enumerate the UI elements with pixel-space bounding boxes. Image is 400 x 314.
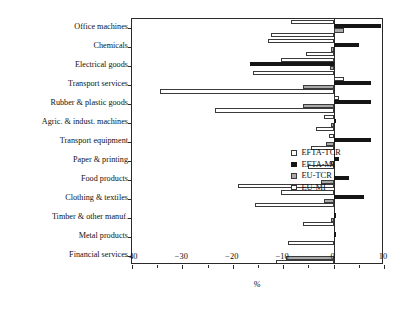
- bar-efta-mi: [334, 138, 372, 142]
- x-axis-tick-label: −40: [124, 252, 137, 261]
- bar-efta-mi: [334, 119, 337, 123]
- x-axis-tick-label: −30: [175, 252, 188, 261]
- y-axis-tick: [128, 161, 132, 162]
- legend-swatch-icon: [291, 162, 297, 168]
- bar-eu-mi: [271, 33, 334, 37]
- bar-efta-mi: [334, 43, 359, 47]
- y-axis-tick: [128, 85, 132, 86]
- y-axis-tick: [128, 47, 132, 48]
- x-axis-minor-tick: [157, 265, 158, 268]
- x-axis-tick-label: 10: [379, 252, 387, 261]
- category-label: Food products: [81, 174, 128, 183]
- category-label: Chemicals: [93, 41, 128, 50]
- bar-efta-mi: [334, 195, 364, 199]
- category-label: Timber & other manuf.: [52, 212, 128, 221]
- bar-eu-mi: [316, 127, 334, 131]
- x-axis-minor-tick: [359, 265, 360, 268]
- x-axis-tick: [384, 265, 385, 269]
- bar-efta-mi: [334, 232, 337, 236]
- y-axis-tick: [128, 218, 132, 219]
- category-label: Financial services: [69, 250, 128, 259]
- x-axis-tick-label: 0: [331, 252, 335, 261]
- y-axis-tick: [128, 142, 132, 143]
- y-axis-tick: [128, 237, 132, 238]
- bar-efta-mi: [334, 81, 372, 85]
- y-axis-tick: [128, 28, 132, 29]
- category-label: Transport services: [68, 79, 128, 88]
- y-axis-tick: [128, 180, 132, 181]
- x-axis-minor-tick: [258, 265, 259, 268]
- x-axis-tick: [334, 265, 335, 269]
- bar-efta-tcr: [291, 20, 334, 24]
- plot-inner: [132, 19, 382, 263]
- category-label: Paper & printing: [73, 155, 128, 164]
- category-label: Transport equipment: [60, 136, 128, 145]
- x-axis-tick: [283, 265, 284, 269]
- category-label: Rubber & plastic goods: [50, 98, 128, 107]
- legend-item-efta-mi: EFTA-MI: [291, 159, 341, 171]
- legend-swatch-icon: [291, 150, 297, 156]
- bar-eu-mi: [303, 222, 333, 226]
- legend-swatch-icon: [291, 185, 297, 191]
- legend-item-eu-tcr: EU-TCR: [291, 170, 341, 182]
- y-axis-tick: [128, 123, 132, 124]
- bar-eu-mi: [306, 52, 334, 56]
- x-axis-minor-tick: [208, 265, 209, 268]
- legend-item-eu-mi: EU-MI: [291, 182, 341, 194]
- category-label: Clothing & textiles: [65, 193, 128, 202]
- y-axis-tick: [128, 104, 132, 105]
- bar-eu-mi: [215, 108, 333, 112]
- x-axis-tick: [233, 265, 234, 269]
- legend-label: EFTA-TCR: [302, 148, 341, 157]
- bar-eu-mi: [160, 89, 334, 93]
- x-axis-tick-label: −10: [276, 252, 289, 261]
- bar-efta-tcr: [324, 115, 334, 119]
- y-axis-tick: [128, 66, 132, 67]
- legend-label: EFTA-MI: [302, 160, 335, 169]
- bar-efta-tcr: [268, 39, 334, 43]
- bar-efta-mi: [334, 213, 337, 217]
- chart-figure: Office machinesChemicalsElectrical goods…: [0, 0, 400, 314]
- bar-efta-mi: [250, 62, 333, 66]
- bar-eu-mi: [253, 71, 334, 75]
- bar-efta-mi: [334, 100, 372, 104]
- category-label: Electrical goods: [75, 60, 128, 69]
- x-axis-tick: [182, 265, 183, 269]
- category-label: Agric. & indust. machines: [42, 117, 128, 126]
- bar-eu-mi: [255, 203, 333, 207]
- legend-item-efta-tcr: EFTA-TCR: [291, 147, 341, 159]
- x-axis-minor-tick: [308, 265, 309, 268]
- legend-swatch-icon: [291, 173, 297, 179]
- bar-eu-mi: [288, 241, 333, 245]
- category-label: Metal products: [79, 231, 128, 240]
- bar-eu-tcr: [334, 28, 344, 32]
- category-axis-labels: Office machinesChemicalsElectrical goods…: [0, 0, 128, 314]
- x-axis-tick-label: −20: [225, 252, 238, 261]
- legend-label: EU-MI: [302, 183, 326, 192]
- chart-legend: EFTA-TCREFTA-MIEU-TCREU-MI: [291, 147, 341, 193]
- category-label: Office machines: [74, 22, 128, 31]
- plot-area: EFTA-TCREFTA-MIEU-TCREU-MI: [131, 18, 383, 264]
- x-axis-tick: [132, 265, 133, 269]
- y-axis-tick: [128, 199, 132, 200]
- x-axis-title: %: [131, 279, 383, 289]
- legend-label: EU-TCR: [302, 171, 332, 180]
